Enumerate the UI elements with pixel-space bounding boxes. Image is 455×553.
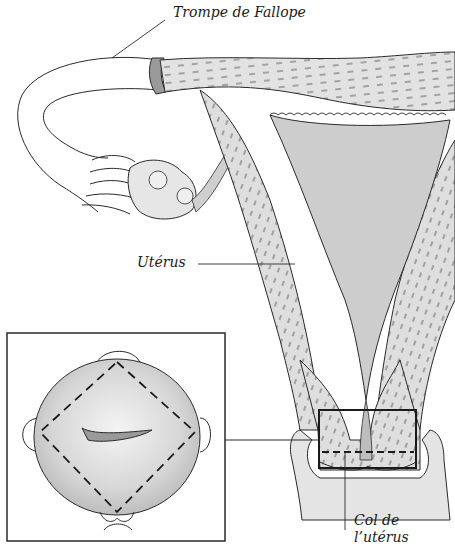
anatomy-diagram: Trompe de Fallope Utérus Col de l’utérus xyxy=(0,0,455,553)
diagram-canvas xyxy=(0,0,455,553)
label-uterus: Utérus xyxy=(137,254,186,271)
label-fallopian-tube: Trompe de Fallope xyxy=(173,4,306,21)
ovary xyxy=(82,155,232,219)
label-cervix: Col de l’utérus xyxy=(354,512,409,546)
label-cervix-line1: Col de xyxy=(354,512,409,529)
label-cervix-line2: l’utérus xyxy=(354,529,409,546)
cervix-inset xyxy=(7,333,225,541)
leader-fallopian xyxy=(112,20,165,58)
